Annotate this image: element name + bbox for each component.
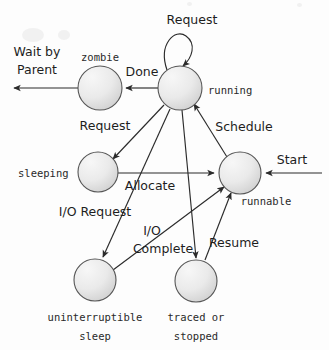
edge-running-self — [164, 34, 192, 70]
state-node-running[interactable] — [158, 66, 202, 110]
state-node-uninterruptible-sleep[interactable] — [74, 259, 116, 301]
state-diagram-svg — [0, 0, 329, 350]
diagram-canvas: zombie running sleeping runnable uninter… — [0, 0, 329, 350]
state-node-traced-or-stopped[interactable] — [175, 260, 217, 302]
edge-running-traced — [182, 110, 196, 258]
state-node-sleeping[interactable] — [78, 152, 118, 192]
edge-traced-runnable — [205, 193, 231, 260]
edge-running-sleeping — [113, 105, 164, 159]
state-node-runnable[interactable] — [219, 152, 261, 194]
state-node-zombie[interactable] — [78, 66, 122, 110]
edge-runnable-running — [194, 104, 227, 157]
